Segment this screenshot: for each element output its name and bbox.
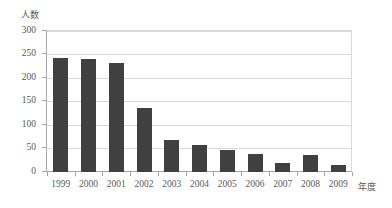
y-tick-mark-250	[42, 53, 46, 54]
bar-slot-2003	[158, 30, 186, 172]
bar-2003[interactable]	[164, 140, 179, 172]
x-tick-label-2007: 2007	[269, 178, 297, 190]
y-tick-mark-150	[42, 100, 46, 101]
y-axis-title: 人数	[21, 8, 39, 21]
y-tick-label-250: 250	[0, 48, 36, 58]
y-tick-label-300: 300	[0, 25, 36, 35]
x-tick-label-2004: 2004	[186, 178, 214, 190]
y-tick-label-0: 0	[0, 166, 36, 176]
x-tick-mark-4	[158, 172, 159, 176]
x-tick-label-1999: 1999	[47, 178, 75, 190]
bar-slot-2008	[297, 30, 325, 172]
y-tick-mark-300	[42, 30, 46, 31]
x-tick-label-2005: 2005	[213, 178, 241, 190]
x-axis-title: 年度	[358, 180, 376, 193]
bar-slot-2001	[102, 30, 130, 172]
bar-slot-2000	[75, 30, 103, 172]
x-tick-mark-6	[213, 172, 214, 176]
y-tick-mark-100	[42, 124, 46, 125]
x-tick-mark-1	[75, 172, 76, 176]
bar-1999[interactable]	[53, 58, 68, 172]
x-tick-mark-0	[47, 172, 48, 176]
bar-2004[interactable]	[192, 145, 207, 172]
bar-2007[interactable]	[275, 163, 290, 172]
x-tick-label-2008: 2008	[297, 178, 325, 190]
y-tick-label-150: 150	[0, 95, 36, 105]
bar-2000[interactable]	[81, 59, 96, 172]
x-tick-mark-5	[186, 172, 187, 176]
y-tick-label-200: 200	[0, 72, 36, 82]
x-axis-labels: 1999 2000 2001 2002 2003 2004 2005 2006 …	[47, 178, 352, 190]
y-tick-mark-200	[42, 77, 46, 78]
bar-2005[interactable]	[220, 150, 235, 172]
x-tick-mark-2	[102, 172, 103, 176]
y-tick-label-100: 100	[0, 119, 36, 129]
bar-2001[interactable]	[109, 63, 124, 172]
x-tick-label-2006: 2006	[241, 178, 269, 190]
x-tick-mark-8	[269, 172, 270, 176]
bar-2009[interactable]	[331, 165, 346, 172]
x-tick-mark-3	[130, 172, 131, 176]
bar-chart: 人数 年度 300 250 200 150 100 50 0	[0, 0, 392, 208]
bar-slot-2002	[130, 30, 158, 172]
x-tick-mark-10	[324, 172, 325, 176]
bar-2002[interactable]	[137, 108, 152, 172]
x-tick-label-2003: 2003	[158, 178, 186, 190]
x-tick-label-2000: 2000	[75, 178, 103, 190]
bar-slot-1999	[47, 30, 75, 172]
bar-2006[interactable]	[248, 154, 263, 172]
bar-2008[interactable]	[303, 155, 318, 172]
bar-slot-2004	[186, 30, 214, 172]
x-tick-mark-9	[297, 172, 298, 176]
bar-series	[47, 30, 352, 172]
bar-slot-2009	[324, 30, 352, 172]
x-tick-label-2009: 2009	[324, 178, 352, 190]
bar-slot-2007	[269, 30, 297, 172]
x-tick-label-2002: 2002	[130, 178, 158, 190]
bar-slot-2005	[213, 30, 241, 172]
y-tick-label-50: 50	[0, 142, 36, 152]
y-tick-mark-0	[42, 171, 46, 172]
x-tick-mark-7	[241, 172, 242, 176]
x-tick-mark-11	[352, 172, 353, 176]
x-tick-label-2001: 2001	[102, 178, 130, 190]
y-tick-mark-50	[42, 147, 46, 148]
bar-slot-2006	[241, 30, 269, 172]
